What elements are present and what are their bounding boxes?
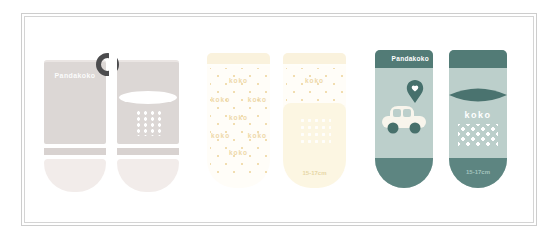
pattern-word: koko (211, 96, 230, 103)
pink-sock-right (117, 60, 179, 192)
yellow-sock-foot: 15-17cm (283, 103, 346, 188)
logo-word: koko (449, 110, 507, 120)
pink-sock-left-body: Pandakoko (44, 60, 106, 144)
pink-sock-right-toe (117, 159, 179, 192)
car-icon (382, 104, 426, 138)
teal-sock-left: Pandakoko (375, 50, 433, 188)
lens-ellipse-shape (449, 87, 507, 107)
yellow-sock-left: koko koko koko koko koko koko koko (207, 53, 270, 188)
size-label: 15-17cm (449, 169, 507, 175)
hanger-clip-gap (109, 51, 117, 87)
pattern-word: koko (305, 77, 324, 84)
teal-sock-left-toe (375, 158, 433, 188)
pink-sock-right-body (117, 60, 179, 144)
pink-sock-left: Pandakoko (44, 60, 106, 192)
ankle-stripe (44, 148, 106, 155)
brand-band: Pandakoko (375, 50, 433, 68)
argyle-dot-pattern (210, 68, 267, 176)
pink-sock-left-toe (44, 159, 106, 192)
pattern-word: koko (229, 77, 248, 84)
brand-band (449, 50, 507, 68)
teal-sock-right: koko 15-17cm (449, 50, 507, 188)
argyle-dot-pattern (286, 68, 343, 104)
dot-grid-pattern (134, 109, 164, 136)
size-label: 15-17cm (283, 170, 346, 176)
dot-grid-pattern (299, 117, 331, 147)
dot-diamond-pattern (458, 124, 498, 146)
lens-ellipse-shape (119, 91, 177, 104)
teal-sock-right-toe: 15-17cm (449, 158, 507, 188)
pattern-word: koko (211, 132, 230, 139)
hanger-clip-icon (96, 53, 119, 76)
yellow-sock-cuff (207, 53, 270, 66)
yellow-sock-right: koko 15-17cm (283, 53, 346, 188)
pattern-word: koko (229, 149, 248, 156)
ankle-stripe (117, 148, 179, 155)
brand-label: Pandakoko (392, 55, 429, 62)
product-image: Pandakoko koko koko koko koko koko koko … (0, 0, 553, 240)
yellow-sock-cuff (283, 53, 346, 66)
pattern-word: koko (248, 96, 267, 103)
pattern-word: koko (248, 132, 267, 139)
pattern-word: koko (229, 114, 248, 121)
